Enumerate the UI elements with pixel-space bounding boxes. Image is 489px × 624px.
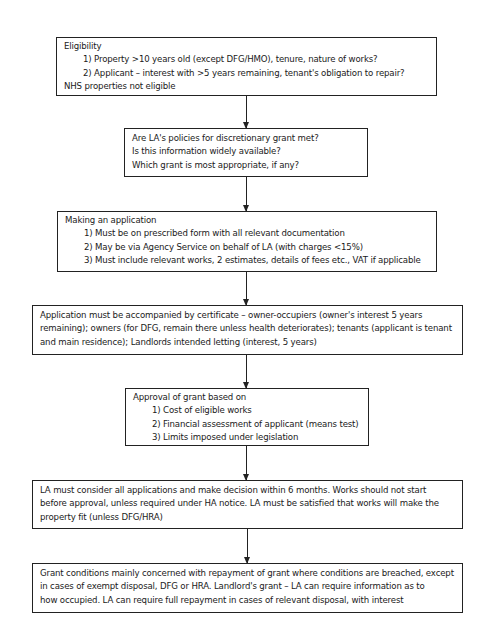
certificate-line-3: and main residence); Landlords intended … <box>40 336 455 349</box>
grant-conditions-line-1: Grant conditions mainly concerned with r… <box>40 567 455 580</box>
grant-conditions-line-2: in cases of exempt disposal, DFG or HRA.… <box>40 580 455 593</box>
certificate-line-2: remaining); owners (for DFG, remain ther… <box>40 322 455 335</box>
eligibility-footer: NHS properties not eligible <box>64 80 429 93</box>
making-application-item-1: 1) Must be on prescribed form with all r… <box>65 227 429 240</box>
certificate-line-1: Application must be accompanied by certi… <box>40 309 455 322</box>
arrow-down-icon <box>246 96 247 128</box>
making-application-title: Making an application <box>65 214 429 227</box>
making-application-item-2: 2) May be via Agency Service on behalf o… <box>65 241 429 254</box>
eligibility-box: Eligibility 1) Property >10 years old (e… <box>56 37 437 96</box>
decision-box: LA must consider all applications and ma… <box>32 480 463 529</box>
arrow-down-icon <box>247 529 248 563</box>
arrow-down-icon <box>246 272 247 305</box>
la-policies-line-3: Which grant is most appropriate, if any? <box>132 159 360 172</box>
eligibility-item-2: 2) Applicant – interest with >5 years re… <box>64 67 429 80</box>
decision-line-2: before approval, unless required under H… <box>40 497 455 510</box>
approval-title: Approval of grant based on <box>133 391 361 404</box>
approval-box: Approval of grant based on 1) Cost of el… <box>125 388 369 446</box>
approval-item-1: 1) Cost of eligible works <box>133 404 361 417</box>
grant-conditions-line-3: how occupied. LA can require full repaym… <box>40 594 455 607</box>
making-application-item-3: 3) Must include relevant works, 2 estima… <box>65 254 429 267</box>
approval-item-2: 2) Financial assessment of applicant (me… <box>133 418 361 431</box>
decision-line-1: LA must consider all applications and ma… <box>40 484 455 497</box>
grant-conditions-box: Grant conditions mainly concerned with r… <box>32 563 463 613</box>
eligibility-title: Eligibility <box>64 40 429 53</box>
la-policies-line-1: Are LA's policies for discretionary gran… <box>132 132 360 145</box>
arrow-down-icon <box>246 446 247 480</box>
approval-item-3: 3) Limits imposed under legislation <box>133 431 361 444</box>
arrow-down-icon <box>246 177 247 211</box>
making-application-box: Making an application 1) Must be on pres… <box>57 211 437 272</box>
arrow-down-icon <box>246 355 247 388</box>
decision-line-3: property fit (unless DFG/HRA) <box>40 511 455 524</box>
la-policies-line-2: Is this information widely available? <box>132 145 360 158</box>
la-policies-box: Are LA's policies for discretionary gran… <box>124 128 368 177</box>
certificate-box: Application must be accompanied by certi… <box>32 305 463 355</box>
eligibility-item-1: 1) Property >10 years old (except DFG/HM… <box>64 53 429 66</box>
